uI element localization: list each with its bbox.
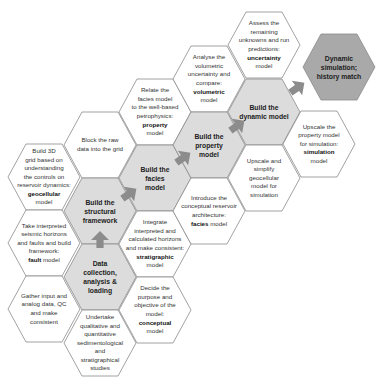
- hexagon-history: [303, 34, 375, 100]
- workflow-hexagon-diagram: [0, 0, 384, 387]
